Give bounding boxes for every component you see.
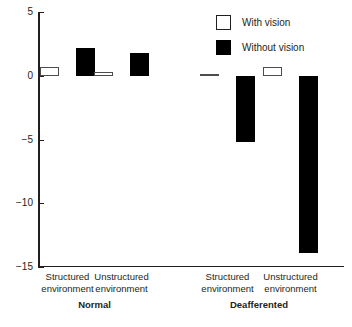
category-label-line: Unstructured xyxy=(72,271,172,283)
bar-without-vision-1 xyxy=(130,53,149,75)
bar-without-vision-3 xyxy=(299,76,318,253)
category-label-3: Unstructuredenvironment xyxy=(241,271,341,295)
legend-label-without-vision: Without vision xyxy=(242,41,304,54)
y-tick-label: −5 xyxy=(22,133,33,146)
y-tick-0: 5 xyxy=(38,12,44,13)
y-tick-3: −10 xyxy=(38,203,44,204)
bar-without-vision-2 xyxy=(236,76,255,142)
y-tick-label: −10 xyxy=(16,196,33,209)
category-label-line: Unstructured xyxy=(241,271,341,283)
black-square-icon xyxy=(216,40,231,55)
bar-with-vision-3 xyxy=(263,67,282,75)
bar-chart: 50−5−10−15 StructuredenvironmentUnstruct… xyxy=(0,0,352,327)
bar-with-vision-1 xyxy=(94,72,113,76)
category-label-line: environment xyxy=(72,283,172,295)
category-label-1: Unstructuredenvironment xyxy=(72,271,172,295)
category-label-line: environment xyxy=(241,283,341,295)
group-label-1: Deafferented xyxy=(199,299,319,311)
y-tick-label: 0 xyxy=(27,69,33,82)
legend: With vision Without vision xyxy=(216,12,304,62)
x-axis-baseline xyxy=(38,266,344,268)
group-label-0: Normal xyxy=(35,299,155,311)
y-tick-1: 0 xyxy=(38,76,44,77)
y-tick-mark xyxy=(38,12,44,13)
bar-with-vision-0 xyxy=(40,67,59,75)
y-tick-label: 5 xyxy=(27,5,33,18)
y-tick-mark xyxy=(38,203,44,204)
y-tick-mark xyxy=(38,140,44,141)
y-tick-2: −5 xyxy=(38,140,44,141)
y-tick-4: −15 xyxy=(38,267,44,268)
legend-item-with-vision: With vision xyxy=(216,12,304,33)
y-tick-mark xyxy=(38,76,44,77)
legend-label-with-vision: With vision xyxy=(242,16,290,29)
white-square-icon xyxy=(216,15,231,30)
bar-with-vision-2 xyxy=(200,74,219,76)
legend-item-without-vision: Without vision xyxy=(216,37,304,58)
y-tick-mark xyxy=(38,267,44,268)
bar-without-vision-0 xyxy=(76,48,95,75)
